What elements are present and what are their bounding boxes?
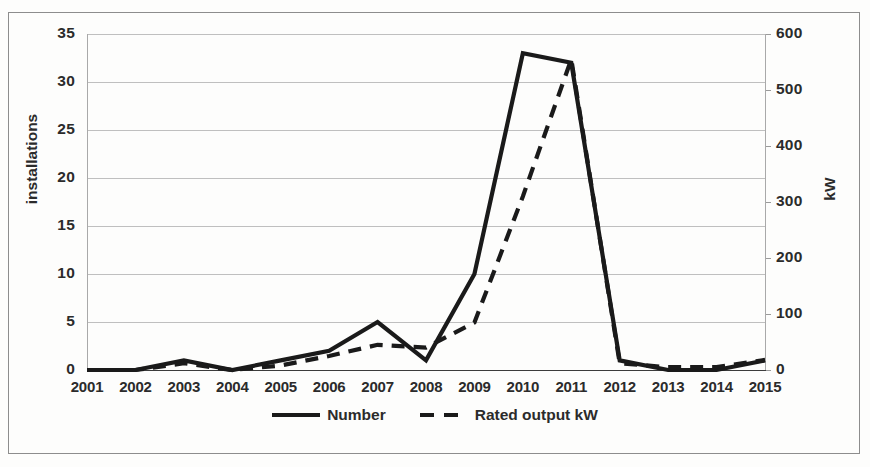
y-axis-right-title: kW bbox=[821, 159, 839, 219]
x-axis-tick-label: 2015 bbox=[739, 378, 791, 395]
y-axis-right-tick-label: 500 bbox=[776, 80, 826, 98]
y-axis-right-tick-label: 0 bbox=[776, 360, 826, 378]
x-axis-tick-label: 2008 bbox=[400, 378, 452, 395]
y-axis-left-tick-label: 25 bbox=[35, 120, 75, 138]
y-axis-right-tick-label: 100 bbox=[776, 304, 826, 322]
y-axis-left-tick-label: 20 bbox=[35, 168, 75, 186]
y-axis-left-tick-label: 15 bbox=[35, 216, 75, 234]
legend-label-number: Number bbox=[327, 406, 386, 424]
y-axis-right-tick bbox=[766, 146, 771, 147]
y-axis-right-tick bbox=[766, 314, 771, 315]
y-axis-right-tick bbox=[766, 370, 771, 371]
y-axis-right-tick-label: 600 bbox=[776, 24, 826, 42]
y-axis-left-line bbox=[87, 34, 88, 370]
x-axis-tick-label: 2011 bbox=[545, 378, 597, 395]
dashed-line-icon bbox=[420, 413, 468, 417]
x-axis-tick-label: 2004 bbox=[206, 378, 258, 395]
legend-item-number[interactable]: Number bbox=[272, 406, 386, 424]
y-axis-left-tick-label: 30 bbox=[35, 72, 75, 90]
x-axis-tick-label: 2006 bbox=[303, 378, 355, 395]
x-axis-tick-label: 2010 bbox=[497, 378, 549, 395]
y-axis-right-tick bbox=[766, 90, 771, 91]
x-axis-tick-label: 2012 bbox=[594, 378, 646, 395]
gridline bbox=[87, 130, 765, 131]
y-axis-right-tick-label: 300 bbox=[776, 192, 826, 210]
y-axis-left-tick-label: 35 bbox=[35, 24, 75, 42]
y-axis-right-tick-label: 200 bbox=[776, 248, 826, 266]
x-axis-tick-label: 2005 bbox=[255, 378, 307, 395]
y-axis-right-tick bbox=[766, 258, 771, 259]
x-axis-tick-label: 2002 bbox=[109, 378, 161, 395]
gridline bbox=[87, 82, 765, 83]
x-axis-tick-label: 2003 bbox=[158, 378, 210, 395]
legend-label-rated-output: Rated output kW bbox=[475, 406, 598, 424]
x-axis-tick-label: 2013 bbox=[642, 378, 694, 395]
gridline bbox=[87, 274, 765, 275]
x-axis-tick-label: 2009 bbox=[448, 378, 500, 395]
x-axis-tick-label: 2014 bbox=[691, 378, 743, 395]
gridline bbox=[87, 322, 765, 323]
y-axis-right-tick-label: 400 bbox=[776, 136, 826, 154]
chart-root: 35302520151050 6005004003002001000 20012… bbox=[0, 0, 870, 467]
y-axis-right-tick bbox=[766, 34, 771, 35]
y-axis-left-tick-label: 0 bbox=[35, 360, 75, 378]
gridline bbox=[87, 178, 765, 179]
y-axis-left-title: installations bbox=[23, 99, 41, 219]
gridline bbox=[87, 226, 765, 227]
gridline bbox=[87, 34, 765, 35]
chart-legend: Number Rated output kW bbox=[0, 406, 870, 424]
x-axis-tick-label: 2007 bbox=[352, 378, 404, 395]
x-axis-line bbox=[87, 370, 766, 371]
y-axis-left-tick-label: 10 bbox=[35, 264, 75, 282]
solid-line-icon bbox=[272, 413, 320, 417]
x-axis-tick-label: 2001 bbox=[61, 378, 113, 395]
legend-item-rated-output[interactable]: Rated output kW bbox=[420, 406, 598, 424]
y-axis-left-tick-label: 5 bbox=[35, 312, 75, 330]
y-axis-right-tick bbox=[766, 202, 771, 203]
